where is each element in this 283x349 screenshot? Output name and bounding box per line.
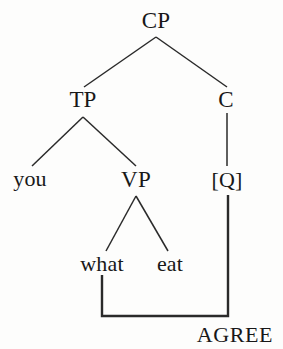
node-tp: TP bbox=[69, 88, 96, 111]
node-cp: CP bbox=[142, 9, 171, 32]
branch-cp-to-tp bbox=[84, 37, 156, 87]
syntax-tree-figure: CP TP C you VP [Q] what eat AGREE bbox=[0, 0, 283, 349]
branch-lines bbox=[32, 37, 227, 251]
terminal-what: what bbox=[80, 253, 124, 275]
agree-relation-label: AGREE bbox=[197, 324, 273, 346]
branch-cp-to-c bbox=[156, 37, 227, 87]
feature-q: [Q] bbox=[211, 169, 242, 191]
branch-vp-to-what bbox=[106, 196, 136, 251]
node-c: C bbox=[218, 88, 234, 111]
branch-vp-to-eat bbox=[136, 196, 168, 251]
node-vp: VP bbox=[121, 168, 151, 191]
terminal-eat: eat bbox=[157, 253, 183, 275]
branch-tp-to-vp bbox=[83, 117, 136, 166]
branch-tp-to-you bbox=[32, 117, 83, 166]
terminal-you: you bbox=[13, 168, 47, 190]
